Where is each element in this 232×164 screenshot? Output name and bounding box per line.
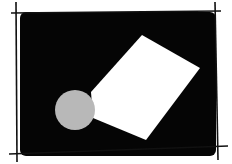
ball-icon [55, 90, 95, 130]
image-placeholder-illustration [0, 0, 232, 164]
